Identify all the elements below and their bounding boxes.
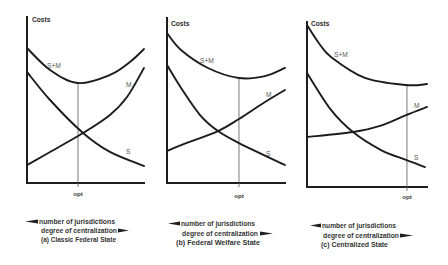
x-tick-opt: opt: [402, 193, 412, 200]
panel-caption: (a) Classic Federal State: [41, 236, 116, 244]
curve-label-s: S: [126, 148, 131, 155]
y-axis-label: Costs: [171, 20, 190, 27]
curve-label-s: S: [266, 150, 271, 157]
x-tick-opt: opt: [73, 190, 83, 197]
curve-label-s-plus-m: S+M: [200, 57, 214, 64]
x-label-jurisdictions: number of jurisdictions: [39, 218, 115, 226]
curve-label-s: S: [414, 154, 419, 161]
panel-caption: (c) Centralized State: [321, 241, 388, 249]
curve-label-m: M: [414, 102, 420, 109]
y-axis-label: Costs: [311, 20, 330, 27]
panel-caption: (b) Federal Welfare State: [176, 239, 260, 247]
x-tick-opt: opt: [234, 192, 244, 199]
y-axis-label: Costs: [32, 16, 51, 23]
x-label-centralization: degree of centralization: [323, 232, 399, 240]
x-label-jurisdictions: number of jurisdictions: [322, 222, 396, 230]
x-label-jurisdictions: number of jurisdictions: [181, 220, 255, 228]
figure-canvas: Costs S+M M S opt number of jurisdiction…: [0, 0, 448, 265]
curve-label-s-plus-m: S+M: [47, 62, 61, 69]
x-label-centralization: degree of centralization: [182, 230, 258, 238]
curve-label-m: M: [266, 91, 272, 98]
curve-label-m: M: [126, 81, 132, 88]
x-label-centralization: degree of centralization: [41, 227, 117, 235]
curve-label-s-plus-m: S+M: [334, 51, 348, 58]
